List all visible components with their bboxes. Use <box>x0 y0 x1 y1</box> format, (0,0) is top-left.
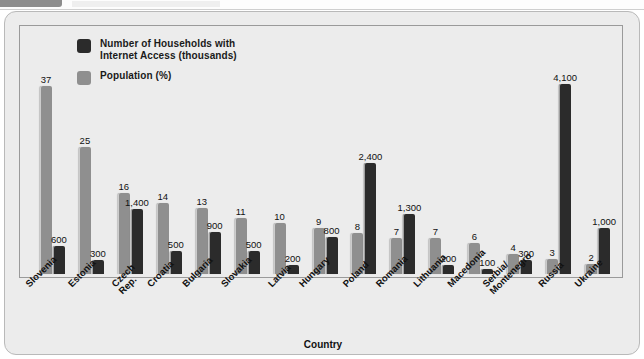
bar-net: 4,100 <box>559 84 571 274</box>
bar-value-label: 7 <box>433 227 438 237</box>
bar-group: 9800 <box>306 36 345 274</box>
x-tick: Slovenia <box>33 280 72 342</box>
chrome-address-field[interactable] <box>72 1 220 7</box>
x-tick: Poland <box>345 280 384 342</box>
bar-group: 34,100 <box>539 36 578 274</box>
x-tick: Lithuania <box>422 280 461 342</box>
bar-group: 71,300 <box>383 36 422 274</box>
legend-item: Population (%) <box>77 70 237 85</box>
bar-value-label: 9 <box>316 217 321 227</box>
legend-label: Population (%) <box>100 70 171 82</box>
chart-legend: Number of Households with Internet Acces… <box>77 38 237 94</box>
bar-net: 800 <box>326 237 338 274</box>
x-tick: Serbia/ Montenegro <box>500 280 539 342</box>
bar-net: 2,400 <box>364 163 376 274</box>
bar-value-label: 1,000 <box>592 217 616 227</box>
x-tick: Romania <box>383 280 422 342</box>
bar-value-label: 8 <box>355 222 360 232</box>
x-tick: Russia <box>539 280 578 342</box>
bar-value-label: 800 <box>324 226 340 236</box>
bar-group: 4300 <box>500 36 539 274</box>
bar-net: 900 <box>209 232 221 274</box>
x-tick: Bulgaria <box>189 280 228 342</box>
legend-swatch-icon <box>77 71 91 85</box>
bar-group: 7200 <box>422 36 461 274</box>
x-axis-title: Country <box>5 339 640 350</box>
x-tick: Czech Rep. <box>111 280 150 342</box>
bar-value-label: 4,100 <box>553 73 577 83</box>
bar-value-label: 1,400 <box>125 198 149 208</box>
app-chrome-strip <box>0 0 644 10</box>
bar-value-label: 900 <box>207 221 223 231</box>
legend-item: Number of Households with Internet Acces… <box>77 38 237 61</box>
chrome-tab[interactable] <box>0 0 62 7</box>
bar-value-label: 7 <box>394 227 399 237</box>
bar-value-label: 1,300 <box>398 203 422 213</box>
x-tick: Estonia <box>72 280 111 342</box>
bar-value-label: 37 <box>41 75 52 85</box>
x-tick: Ukraine <box>578 280 617 342</box>
bar-pop: 37 <box>40 86 52 274</box>
bar-value-label: 200 <box>285 254 301 264</box>
x-tick: Croatia <box>150 280 189 342</box>
bar-value-label: 14 <box>157 192 168 202</box>
x-axis-tick-labels: SloveniaEstoniaCzech Rep.CroatiaBulgaria… <box>29 280 617 342</box>
legend-swatch-icon <box>77 39 91 53</box>
bar-group: 21,000 <box>578 36 617 274</box>
bar-value-label: 13 <box>196 197 207 207</box>
bar-value-label: 500 <box>246 240 262 250</box>
bar-value-label: 25 <box>80 136 91 146</box>
bar-value-label: 11 <box>236 207 246 217</box>
x-tick: Latvia <box>267 280 306 342</box>
legend-label: Number of Households with Internet Acces… <box>100 38 237 61</box>
bar-value-label: 10 <box>274 212 285 222</box>
bar-value-label: 16 <box>119 182 130 192</box>
x-tick: Hungary <box>306 280 345 342</box>
x-tick: Slovakia <box>228 280 267 342</box>
bar-group: 10200 <box>267 36 306 274</box>
chart-card: Number of Households with Internet Acces… <box>4 11 640 355</box>
bar-value-label: 300 <box>90 249 106 259</box>
bar-group: 37600 <box>33 36 72 274</box>
bar-value-label: 3 <box>550 248 555 258</box>
bar-value-label: 600 <box>51 235 67 245</box>
bar-group: 82,400 <box>345 36 384 274</box>
bar-value-label: 2,400 <box>359 152 383 162</box>
bar-value-label: 6 <box>472 232 477 242</box>
bar-group: 6100 <box>461 36 500 274</box>
bar-value-label: 500 <box>168 240 184 250</box>
